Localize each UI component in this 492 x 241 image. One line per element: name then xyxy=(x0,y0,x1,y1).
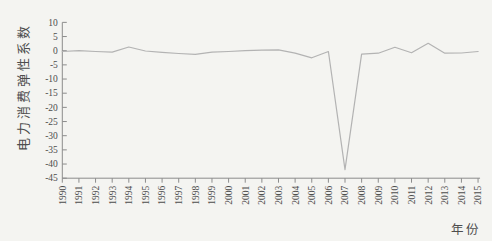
y-tick-label: 5 xyxy=(53,32,58,42)
x-tick-label: 1996 xyxy=(157,185,167,204)
x-tick-label: 2011 xyxy=(407,185,417,204)
x-axis-title: 年份 xyxy=(440,219,492,238)
x-tick-label: 1992 xyxy=(91,185,101,204)
x-tick-label: 1994 xyxy=(124,185,134,204)
line-chart-canvas: 1050-5-10-15-20-25-30-35-40-451990199119… xyxy=(0,0,492,241)
y-tick-label: -30 xyxy=(45,131,58,141)
x-tick-label: 2000 xyxy=(224,185,234,204)
x-tick-label: 1990 xyxy=(58,185,68,204)
y-tick-label: -10 xyxy=(45,74,58,84)
x-tick-label: 1999 xyxy=(207,185,217,204)
x-tick-label: 1995 xyxy=(141,185,151,204)
x-tick-label: 1998 xyxy=(191,185,201,204)
x-tick-label: 2015 xyxy=(473,185,483,204)
x-tick-label: 2009 xyxy=(374,185,384,204)
x-tick-label: 2007 xyxy=(340,185,350,204)
y-tick-label: 0 xyxy=(53,46,58,56)
x-tick-label: 2001 xyxy=(241,185,251,204)
x-tick-label: 1997 xyxy=(174,185,184,204)
y-tick-label: -40 xyxy=(45,159,58,169)
x-tick-label: 2004 xyxy=(291,185,301,204)
x-tick-label: 2008 xyxy=(357,185,367,204)
x-tick-label: 1991 xyxy=(74,185,84,204)
y-tick-label: -45 xyxy=(45,173,58,183)
data-line-elasticity xyxy=(62,43,478,169)
x-tick-label: 2005 xyxy=(307,185,317,204)
y-tick-label: -35 xyxy=(45,145,58,155)
x-tick-label: 2006 xyxy=(324,185,334,204)
x-tick-label: 2013 xyxy=(440,185,450,204)
elasticity-line-chart-figure: 1050-5-10-15-20-25-30-35-40-451990199119… xyxy=(0,0,492,241)
x-tick-label: 2002 xyxy=(257,185,267,204)
y-tick-label: -20 xyxy=(45,103,58,113)
y-tick-label: -25 xyxy=(45,117,58,127)
y-axis-title: 电力消费弹性系数 xyxy=(13,41,28,151)
y-tick-label: -5 xyxy=(50,60,58,70)
x-tick-label: 2010 xyxy=(390,185,400,204)
y-tick-label: 10 xyxy=(48,18,58,28)
x-tick-label: 2003 xyxy=(274,185,284,204)
x-tick-label: 2014 xyxy=(457,185,467,204)
y-tick-label: -15 xyxy=(45,88,58,98)
x-tick-label: 1993 xyxy=(108,185,118,204)
x-tick-label: 2012 xyxy=(424,185,434,204)
